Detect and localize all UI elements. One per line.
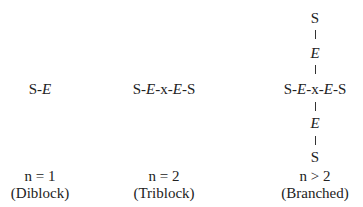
bond-line xyxy=(315,136,316,145)
branched-bottom-s: S xyxy=(311,150,319,165)
branched-bottom-e: E xyxy=(310,116,319,131)
bond-line xyxy=(315,102,316,111)
bond-line xyxy=(315,30,316,39)
bond-line xyxy=(315,65,316,74)
triblock-type-label: (Triblock) xyxy=(133,186,194,201)
branched-type-label: (Branched) xyxy=(281,186,348,201)
branched-formula: S-E-x-E-S xyxy=(284,82,347,97)
branched-top-s: S xyxy=(311,11,319,26)
diblock-formula: S-E xyxy=(29,82,52,97)
diblock-type-label: (Diblock) xyxy=(11,186,69,201)
diblock-n-label: n = 1 xyxy=(25,169,56,184)
triblock-formula: S-E-x-E-S xyxy=(133,82,196,97)
branched-top-e: E xyxy=(310,46,319,61)
branched-n-label: n > 2 xyxy=(300,169,331,184)
triblock-n-label: n = 2 xyxy=(149,169,180,184)
